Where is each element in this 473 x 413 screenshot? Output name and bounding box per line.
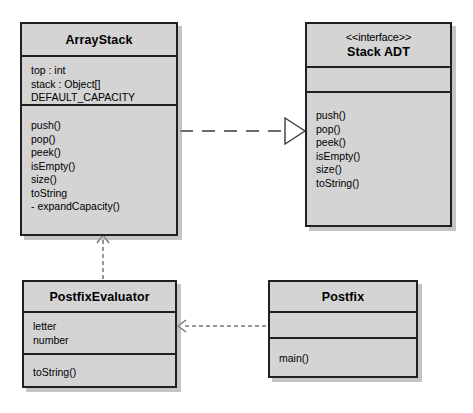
operations-compartment-postfix: main() — [270, 339, 416, 376]
open-arrowhead-up-icon — [97, 235, 109, 243]
operations-compartment-array-stack: push() pop() peek() isEmpty() size() toS… — [22, 106, 176, 234]
class-box-postfix-evaluator[interactable]: PostfixEvaluator letter number toString(… — [22, 280, 177, 388]
class-name-array-stack: ArrayStack — [65, 32, 132, 48]
operation-item: peek() — [31, 146, 176, 160]
operation-item: isEmpty() — [31, 160, 176, 174]
attribute-list-postfix-evaluator: letter number — [24, 313, 175, 347]
class-header-postfix: Postfix — [270, 282, 416, 313]
attribute-item: top : int — [31, 64, 176, 78]
attribute-list-array-stack: top : int stack : Object[] DEFAULT_CAPAC… — [22, 57, 176, 105]
class-name-stack-adt: Stack ADT — [347, 44, 410, 60]
attribute-item: stack : Object[] — [31, 78, 176, 92]
attributes-compartment-postfix-evaluator: letter number — [24, 313, 175, 355]
operation-list-array-stack: push() pop() peek() isEmpty() size() toS… — [22, 106, 176, 214]
class-header-array-stack: ArrayStack — [22, 24, 176, 57]
operation-item: pop() — [316, 123, 450, 137]
operation-item: push() — [31, 119, 176, 133]
operations-compartment-stack-adt: push() pop() peek() isEmpty() size() toS… — [307, 93, 450, 225]
class-name-postfix-evaluator: PostfixEvaluator — [49, 289, 149, 305]
class-header-postfix-evaluator: PostfixEvaluator — [24, 282, 175, 313]
class-header-stack-adt: <<interface>> Stack ADT — [307, 24, 450, 68]
operation-item: isEmpty() — [316, 150, 450, 164]
operation-item: toString() — [316, 177, 450, 191]
attribute-item: DEFAULT_CAPACITY — [31, 91, 176, 105]
operations-compartment-postfix-evaluator: toString() — [24, 355, 175, 386]
class-box-array-stack[interactable]: ArrayStack top : int stack : Object[] DE… — [20, 22, 178, 236]
operation-item: pop() — [31, 133, 176, 147]
hollow-triangle-arrowhead-icon — [285, 118, 305, 144]
class-box-stack-adt[interactable]: <<interface>> Stack ADT push() pop() pee… — [305, 22, 452, 227]
operation-item: push() — [316, 109, 450, 123]
open-arrowhead-left-icon — [178, 320, 186, 332]
attributes-compartment-stack-adt — [307, 68, 450, 93]
class-box-postfix[interactable]: Postfix main() — [268, 280, 418, 378]
operation-item: peek() — [316, 136, 450, 150]
dependency-postfix-postfixevaluator — [178, 320, 266, 332]
operation-item: - expandCapacity() — [31, 200, 176, 214]
dependency-postfixevaluator-arraystack — [97, 235, 109, 279]
stereotype-label-stack-adt: <<interface>> — [346, 30, 411, 44]
operation-item: size() — [316, 163, 450, 177]
operation-list-postfix-evaluator: toString() — [24, 355, 175, 380]
class-name-postfix: Postfix — [322, 289, 364, 305]
attribute-item: letter — [33, 320, 175, 334]
operation-list-stack-adt: push() pop() peek() isEmpty() size() toS… — [307, 93, 450, 190]
attribute-item: number — [33, 334, 175, 348]
operation-item: toString() — [33, 366, 175, 380]
operation-list-postfix: main() — [270, 339, 416, 366]
uml-class-diagram-canvas: ArrayStack --> PostfixEvaluator --> Arra… — [0, 0, 473, 413]
attributes-compartment-postfix — [270, 313, 416, 339]
attributes-compartment-array-stack: top : int stack : Object[] DEFAULT_CAPAC… — [22, 57, 176, 106]
operation-item: main() — [279, 352, 416, 366]
operation-item: size() — [31, 173, 176, 187]
operation-item: toString — [31, 187, 176, 201]
realization-arraystack-stackadt — [180, 118, 305, 144]
